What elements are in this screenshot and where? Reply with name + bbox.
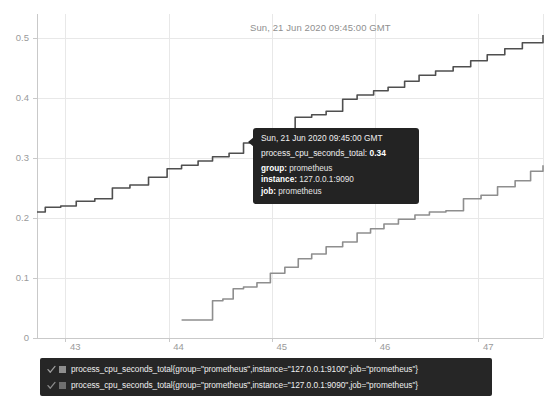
tooltip-label-job: job: prometheus <box>261 186 411 198</box>
tooltip-label-group: group: prometheus <box>261 163 411 175</box>
tooltip-label-group-key: group: <box>261 164 287 173</box>
chart-hover-timestamp: Sun, 21 Jun 2020 09:45:00 GMT <box>250 22 391 33</box>
tooltip-label-instance-key: instance: <box>261 175 297 184</box>
y-axis-tick-label: 0.3 <box>16 152 29 163</box>
chart-tooltip: Sun, 21 Jun 2020 09:45:00 GMT process_cp… <box>253 128 419 204</box>
legend-item[interactable]: process_cpu_seconds_total{group="prometh… <box>40 361 492 377</box>
y-axis-tick-label: 0 <box>24 332 29 343</box>
tooltip-label-instance-value: 127.0.0.1:9090 <box>299 175 354 184</box>
check-icon[interactable] <box>47 381 56 390</box>
prometheus-graph-page: 00.10.20.30.40.54344454647 Sun, 21 Jun 2… <box>0 0 558 416</box>
tooltip-metric-name: process_cpu_seconds_total: <box>261 148 367 158</box>
chart-legend[interactable]: process_cpu_seconds_total{group="prometh… <box>40 358 492 396</box>
legend-color-swatch <box>59 382 66 389</box>
y-axis-tick-label: 0.4 <box>16 92 29 103</box>
legend-item-label: process_cpu_seconds_total{group="prometh… <box>71 364 418 374</box>
tooltip-timestamp: Sun, 21 Jun 2020 09:45:00 GMT <box>261 133 411 145</box>
y-axis-tick-label: 0.1 <box>16 272 29 283</box>
y-axis-tick-label: 0.5 <box>16 32 29 43</box>
tooltip-label-instance: instance: 127.0.0.1:9090 <box>261 174 411 186</box>
legend-item[interactable]: process_cpu_seconds_total{group="prometh… <box>40 377 492 393</box>
tooltip-metric-value: 0.34 <box>369 148 385 158</box>
legend-color-swatch <box>59 366 66 373</box>
check-icon[interactable] <box>47 365 56 374</box>
tooltip-label-group-value: prometheus <box>289 164 332 173</box>
y-axis-tick-label: 0.2 <box>16 212 29 223</box>
chart-panel[interactable]: 00.10.20.30.40.54344454647 Sun, 21 Jun 2… <box>0 0 558 352</box>
tooltip-label-job-value: prometheus <box>278 187 321 196</box>
x-axis-tick-label: 45 <box>276 341 287 352</box>
x-axis-tick-label: 47 <box>483 341 494 352</box>
x-axis-tick-label: 44 <box>173 341 184 352</box>
x-axis-tick-label: 46 <box>380 341 391 352</box>
legend-item-label: process_cpu_seconds_total{group="prometh… <box>71 380 418 390</box>
tooltip-label-job-key: job: <box>261 187 276 196</box>
x-axis-tick-label: 43 <box>70 341 81 352</box>
tooltip-metric: process_cpu_seconds_total: 0.34 <box>261 148 411 160</box>
